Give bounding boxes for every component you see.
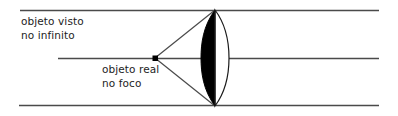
label-infinity-line2: no infinito <box>21 28 84 42</box>
lens-right-half-outline <box>215 10 229 106</box>
lens-left-half-filled <box>201 10 215 106</box>
optics-diagram-figure: objeto visto no infinito objeto real no … <box>0 0 398 116</box>
label-focus-line2: no foco <box>102 76 159 90</box>
label-infinity-line1: objeto visto <box>21 14 84 28</box>
focal-point-marker <box>153 56 159 62</box>
label-focus-line1: objeto real <box>102 62 159 76</box>
label-objeto-visto-no-infinito: objeto visto no infinito <box>21 14 84 42</box>
label-objeto-real-no-foco: objeto real no foco <box>102 62 159 90</box>
